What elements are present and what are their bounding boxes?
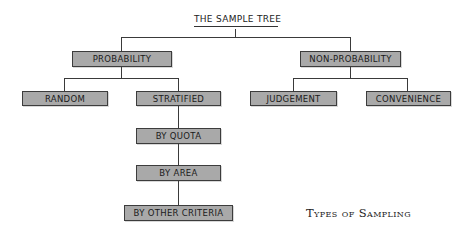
node-by-other-criteria: BY OTHER CRITERIA [124,205,233,221]
connector-quota-to-area [178,144,179,165]
connector-root-to-non-probability [350,37,351,51]
node-by-quota: BY QUOTA [136,128,221,144]
node-judgement: JUDGEMENT [250,91,337,106]
connector-non-probability-horizontal [293,78,408,79]
node-convenience: CONVENIENCE [366,91,451,106]
connector-probability-horizontal [64,78,179,79]
connector-root-to-probability [121,37,122,51]
connector-probability-stub [121,67,122,78]
node-probability: PROBABILITY [72,51,172,67]
node-by-area: BY AREA [136,165,221,181]
connector-to-convenience [407,78,408,91]
connector-non-probability-stub [350,67,351,78]
connector-stratified-to-quota [178,106,179,128]
figure-caption: Types of Sampling [306,206,411,220]
node-random: RANDOM [22,91,108,106]
node-stratified: STRATIFIED [136,91,221,106]
connector-root-horizontal [121,37,351,38]
node-non-probability: NON-PROBABILITY [300,51,401,67]
connector-to-random [64,78,65,91]
connector-to-judgement [293,78,294,91]
connector-area-to-other [178,181,179,205]
diagram-title: THE SAMPLE TREE [194,13,278,27]
connector-root-stub [235,29,236,37]
connector-to-stratified [178,78,179,91]
